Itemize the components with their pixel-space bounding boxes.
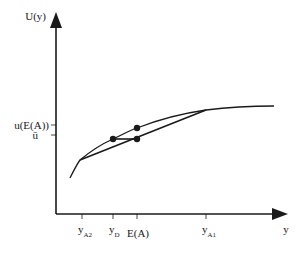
utility-of-expected-value-point xyxy=(134,125,140,131)
utility-curve xyxy=(70,106,274,178)
y-tick-label-u-bar: ū xyxy=(33,129,39,141)
y-axis-label: U(y) xyxy=(25,10,46,23)
expected-utility-point xyxy=(134,136,140,142)
x-axis-arrow-icon xyxy=(272,208,288,220)
x-axis-label: y xyxy=(283,223,289,235)
expected-utility-chord xyxy=(80,110,206,160)
certainty-equivalent-point xyxy=(110,136,116,142)
x-tick-label-ea: E(A) xyxy=(127,227,149,240)
x-tick-label-yd: yD xyxy=(109,223,120,239)
y-axis-arrow-icon xyxy=(50,12,62,28)
x-tick-label-ya1: yA1 xyxy=(202,223,217,239)
x-tick-label-ya2: yA2 xyxy=(78,223,93,239)
utility-diagram: U(y) y u(E(A)) ū yA2 yD E(A) yA1 xyxy=(0,0,299,254)
